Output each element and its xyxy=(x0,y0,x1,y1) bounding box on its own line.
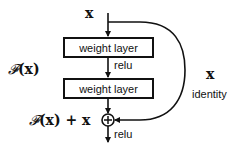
sum-F-symbol: 𝓕 xyxy=(29,112,39,128)
shortcut-var-label: x xyxy=(206,66,214,82)
weight-layer-1: weight layer xyxy=(63,37,154,58)
residual-function-label: 𝓕(x) xyxy=(8,61,40,78)
residual-F-symbol: 𝓕 xyxy=(8,61,18,77)
sum-rest: (x) + x xyxy=(39,112,90,128)
input-label: x xyxy=(85,5,93,21)
relu-label-output: relu xyxy=(114,128,132,140)
weight-layer-2: weight layer xyxy=(63,78,154,99)
add-operator-icon xyxy=(102,114,114,126)
sum-label: 𝓕(x) + x xyxy=(29,112,90,129)
residual-F-arg: (x) xyxy=(18,61,40,77)
residual-block-diagram: x weight layer relu weight layer 𝓕(x) 𝓕(… xyxy=(0,0,245,152)
relu-label-middle: relu xyxy=(114,59,132,71)
identity-label: identity xyxy=(192,88,227,100)
